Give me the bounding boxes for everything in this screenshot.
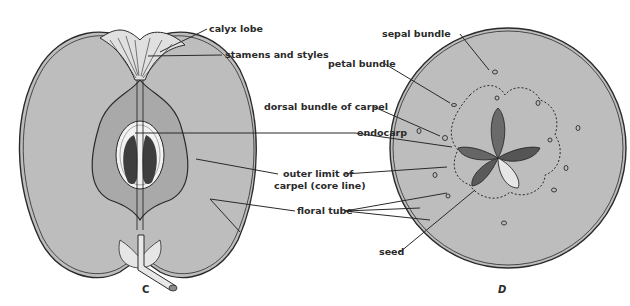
endocarp-capsule	[116, 121, 164, 189]
apple-skin-circle	[390, 28, 626, 268]
label-petal-bundle: petal bundle	[328, 58, 396, 69]
figure-letter-d: D	[498, 284, 506, 295]
label-outer-limit-line2: carpel (core line)	[274, 180, 366, 191]
apple-longitudinal-section	[19, 30, 256, 291]
label-dorsal-bundle: dorsal bundle of carpel	[264, 101, 388, 112]
label-seed: seed	[379, 246, 404, 257]
label-endocarp: endocarp	[357, 127, 407, 138]
apple-cross-section	[390, 28, 626, 268]
label-outer-limit-line1: outer limit of	[283, 168, 353, 179]
label-calyx-lobe: calyx lobe	[209, 23, 263, 34]
label-floral-tube: floral tube	[297, 205, 353, 216]
label-stamens-and-styles: stamens and styles	[225, 49, 329, 60]
apple-diagram	[0, 0, 630, 306]
figure-letter-c: C	[142, 284, 149, 295]
label-sepal-bundle: sepal bundle	[382, 28, 451, 39]
